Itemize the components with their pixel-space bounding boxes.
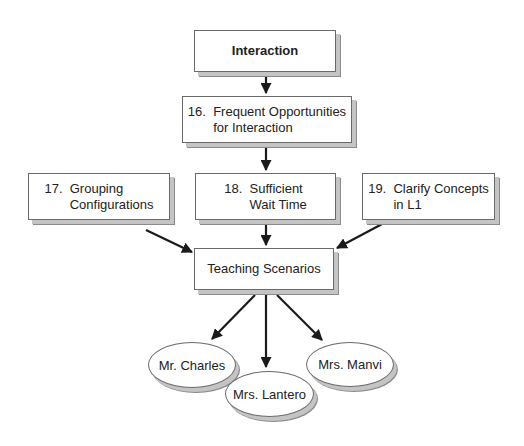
node-18-label: 18. Sufficient Wait Time <box>224 181 307 213</box>
node-teaching-scenarios-label: Teaching Scenarios <box>207 261 320 277</box>
node-teaching-scenarios: Teaching Scenarios <box>194 248 334 290</box>
node-interaction-label: Interaction <box>232 43 298 59</box>
arrow-scenarios-to-charles <box>212 295 255 339</box>
arrow-19-to-scenarios <box>337 223 384 248</box>
ellipse-mrs-manvi: Mrs. Manvi <box>306 342 394 387</box>
mrs-lantero-label: Mrs. Lantero <box>233 387 306 402</box>
node-17-grouping-configurations: 17. Grouping Configurations <box>28 173 170 220</box>
mrs-manvi-label: Mrs. Manvi <box>318 357 382 372</box>
node-19-label: 19. Clarify Concepts in L1 <box>368 181 489 213</box>
ellipse-mrs-lantero: Mrs. Lantero <box>225 371 314 417</box>
node-17-label: 17. Grouping Configurations <box>44 181 153 213</box>
node-interaction: Interaction <box>194 30 336 72</box>
node-19-clarify-concepts: 19. Clarify Concepts in L1 <box>362 173 495 220</box>
mr-charles-label: Mr. Charles <box>159 358 225 373</box>
node-16-label: 16. Frequent Opportunities for Interacti… <box>188 104 346 136</box>
ellipse-mr-charles: Mr. Charles <box>148 342 236 388</box>
node-16-frequent-opportunities: 16. Frequent Opportunities for Interacti… <box>182 96 352 143</box>
arrow-17-to-scenarios <box>146 230 192 252</box>
arrow-scenarios-to-manvi <box>277 295 322 340</box>
node-18-sufficient-wait-time: 18. Sufficient Wait Time <box>195 173 336 220</box>
